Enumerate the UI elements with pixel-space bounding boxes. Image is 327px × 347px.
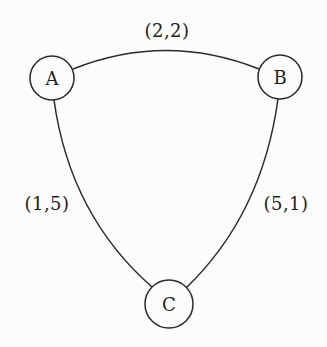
edge-a-c-label: (1,5) <box>24 195 69 213</box>
node-c-label: C <box>162 296 176 314</box>
edge-b-c-label: (5,1) <box>263 195 308 213</box>
graph-diagram: A B C (2,2) (1,5) (5,1) <box>0 0 327 347</box>
edge-a-b <box>73 51 259 70</box>
node-b-label: B <box>273 69 286 87</box>
node-a-label: A <box>46 70 59 88</box>
edge-a-b-label: (2,2) <box>144 22 189 40</box>
